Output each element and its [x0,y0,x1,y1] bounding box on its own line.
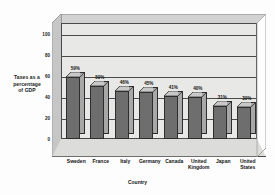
bars-container: 59%50%46%45%41%40%31%30% [61,23,257,139]
x-axis-category-label-line: States [229,164,267,170]
bar-front-face [90,86,104,139]
x-axis-category-label: UnitedStates [229,158,267,170]
bar-front-face [139,92,153,139]
bar-top-outline [90,81,109,86]
bar-value-label: 59% [60,66,90,71]
bar [115,86,134,140]
bar-side-face [178,91,183,134]
y-axis-tick-label: 100 [33,31,50,36]
y-axis-tick-label: 80 [33,52,50,57]
bar-side-face [80,72,85,134]
bar [139,87,158,139]
bar-top-outline [115,86,134,91]
bar-front-face [164,96,178,139]
y-axis-tick-labels: 100806040200 [33,0,50,195]
x-axis-title: Country [0,179,275,185]
bar [66,72,85,139]
bar-front-face [66,77,80,139]
bar-value-label: 40% [183,86,213,91]
bar-value-label: 30% [232,96,262,101]
bar-top-outline [139,87,158,92]
bar-top-outline [164,91,183,96]
plot-area: 59%50%46%45%41%40%31%30% [52,14,266,157]
bar-top-outline [213,101,232,106]
bar-front-face [213,106,227,139]
bar-front-face [237,107,251,139]
y-axis-tick-label: 0 [33,137,50,142]
x-axis-category-label-line: Kingdom [180,164,218,170]
chart-floor [52,139,266,157]
bar [188,92,207,139]
bar-top-outline [188,92,207,97]
chart-wall-top-face [52,14,266,23]
bar-side-face [153,87,158,134]
y-axis-tick-label: 20 [33,115,50,120]
y-axis-tick-label: 40 [33,94,50,99]
bar [164,91,183,139]
bar-front-face [115,91,129,140]
bar-chart: Taxes as a percentage of GDP 10080604020… [0,0,275,195]
bar-side-face [129,86,134,135]
chart-floor-front-edge [52,156,266,157]
bar-top-outline [66,72,85,77]
bar-top-outline [237,102,256,107]
bar-front-face [188,97,202,139]
bar-side-face [104,81,109,134]
y-axis-tick-label: 60 [33,73,50,78]
x-axis-category-labels: SwedenFranceItalyGermanyCanadaUnitedKing… [52,158,266,178]
bar [213,101,232,139]
bar [90,81,109,139]
bar [237,102,256,139]
